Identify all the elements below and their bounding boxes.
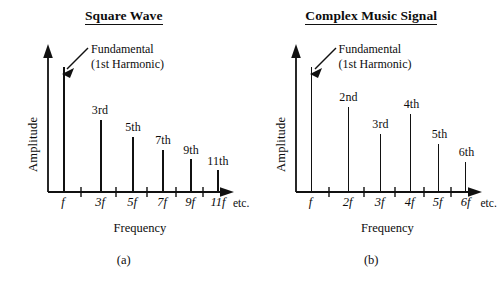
panel-a-plot: 3rd 5th 7th 9th 11th Fundamental (1st Ha… (0, 0, 248, 282)
bar-9f-a (190, 159, 192, 192)
x-tick-label-f-a: f (61, 195, 64, 210)
fundamental-annotation-line1-a: Fundamental (91, 42, 164, 57)
x-tick-label-4f-b: 4f (405, 195, 415, 210)
x-axis-etc-label-b: etc. (481, 197, 497, 209)
panel-a-caption: (a) (0, 253, 248, 268)
x-tick-label-5f-b: 5f (433, 195, 443, 210)
x-tick-label-3f-b: 3f (375, 195, 385, 210)
harmonic-label-7th-a: 7th (155, 133, 171, 148)
harmonic-label-2nd-b: 2nd (339, 90, 357, 105)
bar-5f-b (438, 144, 440, 192)
bar-2f-b (348, 107, 350, 192)
y-axis-arrow-a (43, 44, 53, 58)
y-axis-label-b: Amplitude (274, 117, 289, 172)
x-axis-label-b: Frequency (348, 221, 428, 236)
fundamental-annotation-line1-b: Fundamental (339, 42, 412, 57)
fundamental-arrow-line-b (315, 48, 336, 69)
harmonic-label-6th-b: 6th (459, 145, 475, 160)
bar-3f-a (100, 120, 102, 192)
y-axis-label-a: Amplitude (26, 117, 41, 172)
fundamental-annotation-a: Fundamental (1st Harmonic) (91, 42, 164, 71)
x-tick-label-9f-a: 9f (185, 195, 195, 210)
harmonic-label-3rd-b: 3rd (372, 117, 388, 132)
fundamental-arrow-line-a (67, 48, 88, 69)
bar-6f-b (465, 162, 467, 192)
harmonic-label-9th-a: 9th (183, 143, 199, 158)
bar-4f-b (410, 114, 412, 192)
panel-b-caption: (b) (248, 253, 496, 268)
x-tick-label-2f-b: 2f (343, 195, 353, 210)
harmonic-label-4th-b: 4th (404, 97, 420, 112)
fundamental-annotation-line2-b: (1st Harmonic) (339, 57, 412, 72)
harmonic-label-11th-a: 11th (207, 154, 228, 169)
bar-f-a (63, 67, 65, 192)
x-tick-label-3f-a: 3f (95, 195, 105, 210)
panel-square-wave: Square Wave (0, 0, 248, 282)
y-axis-arrow-b (291, 44, 301, 58)
panel-complex-music-signal: Complex Music Signal 2nd (248, 0, 496, 282)
bar-7f-a (162, 150, 164, 192)
fundamental-annotation-b: Fundamental (1st Harmonic) (339, 42, 412, 71)
x-tick-label-f-b: f (309, 195, 312, 210)
x-tick-label-5f-a: 5f (127, 195, 137, 210)
x-axis-label-a: Frequency (100, 221, 180, 236)
harmonic-label-3rd-a: 3rd (92, 103, 108, 118)
bar-5f-a (132, 137, 134, 192)
x-tick-label-6f-b: 6f (461, 195, 471, 210)
x-tick-label-7f-a: 7f (157, 195, 167, 210)
bar-f-b (311, 67, 313, 192)
bar-11f-a (217, 170, 219, 192)
bar-3f-b (380, 134, 382, 192)
x-tick-label-11f-a: 11f (210, 195, 225, 210)
fundamental-annotation-line2-a: (1st Harmonic) (91, 57, 164, 72)
harmonic-label-5th-b: 5th (432, 127, 448, 142)
harmonic-label-5th-a: 5th (125, 120, 141, 135)
panel-b-plot: 2nd 3rd 4th 5th 6th Fundamental (1st Har… (248, 0, 496, 282)
